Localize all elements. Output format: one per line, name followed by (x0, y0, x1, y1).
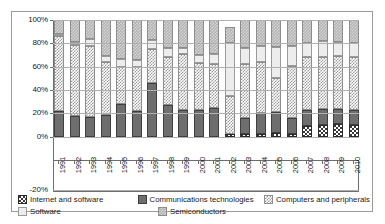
bar-column-1991[interactable] (54, 20, 64, 137)
bar-segment (240, 64, 250, 118)
x-tick-label: 2009 (338, 157, 346, 173)
bar-column-2001[interactable] (209, 20, 219, 137)
gridline-80 (53, 43, 359, 44)
bar-column-2010[interactable] (349, 20, 359, 137)
bar-column-2006[interactable] (287, 20, 297, 137)
bar-column-2003[interactable] (240, 20, 250, 137)
legend-row-2: Software Semiconductors (18, 207, 370, 217)
bar-column-2005[interactable] (271, 20, 281, 137)
bar-segment (178, 54, 188, 110)
bar-segment (194, 63, 204, 110)
y-tick-mark-80 (50, 43, 53, 44)
bar-segment (318, 109, 328, 125)
bar-segment (287, 20, 297, 46)
bar-segment (256, 46, 266, 62)
x-tick-label: 2000 (199, 157, 207, 173)
bar-segment (287, 118, 297, 134)
x-tick-label: 2007 (307, 157, 315, 173)
legend-item-software: Software (18, 207, 158, 216)
bar-segment (318, 57, 328, 108)
x-tick-label: 2006 (292, 157, 300, 173)
bar-column-1992[interactable] (70, 20, 80, 137)
bar-segment (116, 20, 126, 59)
y-tick-label-60: 60% (33, 63, 48, 71)
x-tick-label: 1991 (59, 157, 67, 173)
bar-segment (287, 46, 297, 66)
x-tick-label: 2008 (323, 157, 331, 173)
y-tick-label-80: 80% (33, 39, 48, 47)
gridline-negative-20 (53, 190, 359, 191)
legend-label-semiconductors: Semiconductors (170, 207, 226, 216)
bar-column-1993[interactable] (85, 20, 95, 137)
x-tick-label: 2010 (354, 157, 362, 173)
bar-column-2002[interactable] (225, 20, 235, 137)
bar-segment (240, 48, 250, 64)
x-tick-label: 2005 (276, 157, 284, 173)
x-tick-label: 1997 (152, 157, 160, 173)
bar-column-2008[interactable] (318, 20, 328, 137)
bar-column-1996[interactable] (132, 20, 142, 137)
bar-segment (333, 56, 343, 109)
bar-column-2000[interactable] (194, 20, 204, 137)
bar-segment (147, 83, 157, 137)
plot-area (53, 20, 359, 160)
legend-item-internet-and-software: Internet and software (18, 195, 138, 204)
x-tick-label: 1996 (137, 157, 145, 173)
legend-label-computers-and-peripherals: Computers and peripherals (276, 195, 370, 204)
y-tick-label-20: 20% (33, 109, 48, 117)
bar-segment (54, 20, 64, 34)
bar-segment (256, 113, 266, 134)
bar-segment (85, 46, 95, 117)
bar-segment (132, 67, 142, 111)
bar-segment (333, 20, 343, 42)
bar-column-1998[interactable] (163, 20, 173, 137)
bar-segment (209, 20, 219, 54)
bar-segment (302, 20, 312, 43)
bar-segment (147, 40, 157, 49)
y-tick-mark-60 (50, 67, 53, 68)
x-tick-label: 2004 (261, 157, 269, 173)
bar-segment (333, 124, 343, 137)
bar-segment (163, 105, 173, 137)
bar-column-1994[interactable] (101, 20, 111, 137)
legend-label-software: Software (30, 207, 61, 216)
bar-segment (163, 48, 173, 57)
bar-segment (302, 57, 312, 110)
x-tick-label: 2003 (245, 157, 253, 173)
bar-column-2009[interactable] (333, 20, 343, 137)
x-tick-label: 1994 (106, 157, 114, 173)
legend-label-internet-and-software: Internet and software (30, 195, 103, 204)
bar-segment (225, 43, 235, 96)
y-tick-mark-100 (50, 20, 53, 21)
gridline-20 (53, 113, 359, 114)
bar-segment (116, 104, 126, 137)
bar-column-2007[interactable] (302, 20, 312, 137)
bar-column-1997[interactable] (147, 20, 157, 137)
bar-segment (302, 43, 312, 57)
bar-segment (116, 59, 126, 67)
y-tick-label-0: 0% (37, 133, 48, 141)
bar-segment (132, 111, 142, 137)
x-tick-label: 1993 (90, 157, 98, 173)
bar-segment (194, 55, 204, 63)
x-tick-label: 1995 (121, 157, 129, 173)
bar-segment (70, 45, 80, 116)
bar-segment (132, 20, 142, 60)
bar-segment (333, 109, 343, 124)
x-tick-label: 2002 (230, 157, 238, 173)
x-tick-label: 2001 (214, 157, 222, 173)
bar-column-2004[interactable] (256, 20, 266, 137)
bar-segment (302, 110, 312, 126)
bar-column-1999[interactable] (178, 20, 188, 137)
chart-figure-frame: 100%80%60%40%20%0% 199119921993199419951… (11, 11, 373, 212)
bar-segment (194, 20, 204, 55)
bar-segment (256, 62, 266, 113)
bar-segment (240, 118, 250, 134)
legend-row-1: Internet and software Communications tec… (18, 195, 370, 205)
bar-column-1995[interactable] (116, 20, 126, 137)
chart-legend: Internet and software Communications tec… (12, 193, 374, 213)
bar-segment (256, 20, 266, 46)
bar-segment (349, 43, 359, 57)
plot-wrapper: 100%80%60%40%20%0% (12, 12, 374, 170)
bar-segment (209, 108, 219, 137)
